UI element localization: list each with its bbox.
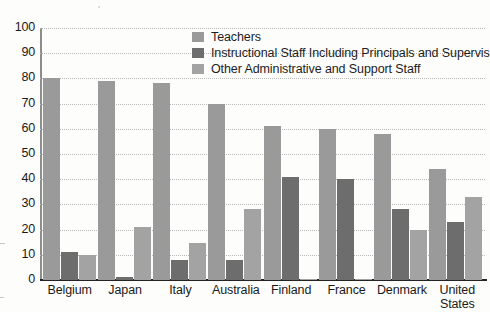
y-tick-label: 0	[1, 272, 35, 286]
bar	[98, 81, 115, 280]
bar	[134, 227, 151, 280]
y-tick-label: 80	[1, 70, 35, 84]
chart-legend: TeachersInstructional Staff Including Pr…	[192, 30, 490, 76]
scan-artifact-left	[0, 243, 5, 244]
bar	[264, 126, 281, 280]
legend-item: Teachers	[192, 30, 490, 44]
x-axis-label: France	[319, 283, 374, 311]
y-tick-label: 50	[1, 146, 35, 160]
bar	[244, 209, 261, 280]
bar	[355, 279, 372, 280]
y-tick-label: 60	[1, 121, 35, 135]
x-axis-label: Japan	[97, 283, 152, 311]
y-tick-label: 30	[1, 196, 35, 210]
bar	[171, 260, 188, 280]
legend-label: Teachers	[211, 30, 261, 44]
x-axis-label: UnitedStates	[430, 283, 485, 311]
x-axis-labels: BelgiumJapanItalyAustraliaFinlandFranceD…	[40, 283, 487, 311]
bar	[374, 134, 391, 280]
bar	[300, 279, 317, 280]
y-tick-label: 100	[1, 20, 35, 34]
legend-swatch-icon	[192, 48, 204, 58]
bar	[61, 252, 78, 280]
bar	[465, 197, 482, 280]
y-tick-label: 40	[1, 171, 35, 185]
y-tick-label: 20	[1, 222, 35, 236]
bar-group	[97, 28, 152, 280]
bar	[208, 104, 225, 280]
x-axis-label: Italy	[153, 283, 208, 311]
bar	[410, 230, 427, 280]
bar	[392, 209, 409, 280]
legend-label: Instructional Staff Including Principals…	[211, 46, 490, 60]
bar	[226, 260, 243, 280]
bar	[337, 179, 354, 280]
bar-group	[42, 28, 97, 280]
bar	[319, 129, 336, 280]
bar	[79, 255, 96, 280]
chart-page: 1009080706050403020100 BelgiumJapanItaly…	[0, 0, 490, 312]
bar	[429, 169, 446, 280]
legend-swatch-icon	[192, 32, 204, 42]
x-axis-label: Denmark	[374, 283, 429, 311]
scan-artifact-left-lower	[0, 297, 4, 298]
y-tick-label: 90	[1, 45, 35, 59]
legend-swatch-icon	[192, 64, 204, 74]
legend-item: Instructional Staff Including Principals…	[192, 46, 490, 60]
legend-item: Other Administrative and Support Staff	[192, 62, 490, 76]
bar	[189, 243, 206, 280]
x-axis-label: Belgium	[42, 283, 97, 311]
x-axis-label: Australia	[208, 283, 263, 311]
bar	[116, 277, 133, 280]
bar	[447, 222, 464, 280]
x-axis-label: Finland	[264, 283, 319, 311]
bar	[43, 78, 60, 280]
bar	[153, 83, 170, 280]
scan-artifact-top	[98, 6, 100, 8]
bar	[282, 177, 299, 280]
legend-label: Other Administrative and Support Staff	[211, 62, 420, 76]
y-tick-label: 10	[1, 247, 35, 261]
y-tick-label: 70	[1, 96, 35, 110]
